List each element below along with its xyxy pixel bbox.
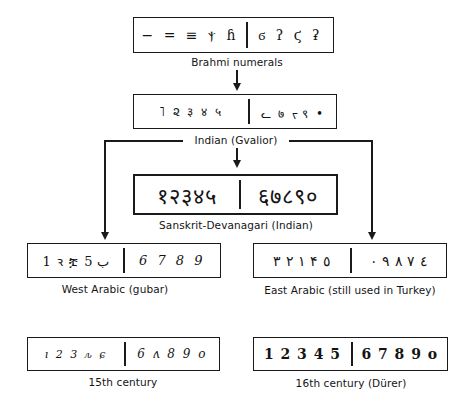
arrow-down-icon bbox=[233, 83, 241, 91]
sixteenth-century-box: 1 2 3 4 5 6 7 8 9 o bbox=[253, 337, 448, 371]
branch-line-left bbox=[104, 140, 183, 142]
branch-line-right bbox=[289, 140, 373, 142]
east-arabic-digits-6-0: ٤ ٧ ٨ ٩ ٠ bbox=[352, 244, 446, 277]
fifteenth-century-label: 15th century bbox=[89, 376, 158, 388]
east-arabic-box: ١ ٢ ٣ ۴ ٥ ٤ ٧ ٨ ٩ ٠ bbox=[253, 243, 447, 278]
east-arabic-label: East Arabic (still used in Turkey) bbox=[264, 284, 436, 296]
arrow-down-icon bbox=[101, 232, 109, 240]
indian-gvalior-label: Indian (Gvalior) bbox=[195, 134, 278, 146]
devanagari-digits-1-5: १२३४५ bbox=[135, 176, 239, 213]
branch-vertical-left bbox=[104, 140, 106, 233]
west-arabic-label: West Arabic (gubar) bbox=[62, 283, 169, 295]
sanskrit-devanagari-box: १२३४५ ६७८९० bbox=[133, 174, 338, 215]
brahmi-digits-1-5: − = ≡ ⲯ ɦ bbox=[134, 18, 246, 52]
brahmi-digits-6-9: ϭ ʔ ϛ ʡ bbox=[248, 18, 333, 52]
indian-gvalior-box: ˥ ૨ ३ ४ ५ ᓚ ७ ᡕ ९ • bbox=[133, 94, 337, 129]
west-arabic-digits-1-5: 1 ꝛ ቿ ب 5 bbox=[28, 244, 123, 277]
indian-digits-6-0: ᓚ ७ ᡕ ९ • bbox=[250, 95, 336, 128]
devanagari-digits-6-0: ६७८९० bbox=[241, 176, 336, 213]
sixteenth-century-digits-6-0: 6 7 8 9 o bbox=[353, 338, 447, 370]
sixteenth-century-digits-1-5: 1 2 3 4 5 bbox=[254, 338, 351, 370]
west-arabic-box: 1 ꝛ ቿ ب 5 6 7 8 9 bbox=[27, 243, 221, 278]
branch-vertical-right bbox=[371, 140, 373, 233]
arrow-down-icon bbox=[368, 232, 376, 240]
brahmi-numerals-box: − = ≡ ⲯ ɦ ϭ ʔ ϛ ʡ bbox=[133, 17, 334, 53]
sanskrit-devanagari-label: Sanskrit-Devanagari (Indian) bbox=[159, 219, 313, 231]
brahmi-numerals-label: Brahmi numerals bbox=[191, 56, 283, 68]
fifteenth-century-box: ı 2 3 ԉ ɕ 6 ʌ 8 9 o bbox=[27, 337, 220, 371]
west-arabic-digits-6-9: 6 7 8 9 bbox=[125, 244, 220, 277]
fifteenth-century-digits-1-5: ı 2 3 ԉ ɕ bbox=[28, 338, 124, 370]
indian-digits-1-5: ˥ ૨ ३ ४ ५ bbox=[134, 95, 248, 128]
fifteenth-century-digits-6-0: 6 ʌ 8 9 o bbox=[126, 338, 219, 370]
arrow-down-icon bbox=[233, 160, 241, 168]
sixteenth-century-label: 16th century (Dürer) bbox=[296, 377, 407, 389]
arrow-shaft bbox=[236, 70, 238, 84]
east-arabic-digits-1-5: ١ ٢ ٣ ۴ ٥ bbox=[254, 244, 350, 277]
